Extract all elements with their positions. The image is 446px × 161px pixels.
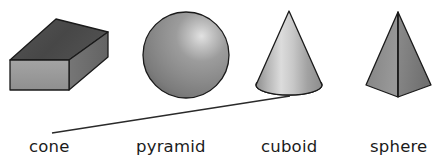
cuboid-front-face <box>10 60 69 90</box>
shape-matching-figure: cone pyramid cuboid sphere <box>0 0 446 161</box>
pyramid-left-face <box>366 12 398 97</box>
cuboid-shape <box>10 19 108 90</box>
matching-line <box>52 96 290 133</box>
sphere-body <box>143 12 229 98</box>
cone-shape <box>256 11 322 95</box>
cone-body <box>256 11 322 95</box>
label-pyramid[interactable]: pyramid <box>136 139 206 156</box>
label-cuboid[interactable]: cuboid <box>261 139 317 156</box>
label-sphere[interactable]: sphere <box>370 139 427 156</box>
pyramid-right-face <box>398 12 431 97</box>
sphere-shape <box>143 12 229 98</box>
pyramid-shape <box>366 12 431 97</box>
label-cone[interactable]: cone <box>29 139 70 156</box>
